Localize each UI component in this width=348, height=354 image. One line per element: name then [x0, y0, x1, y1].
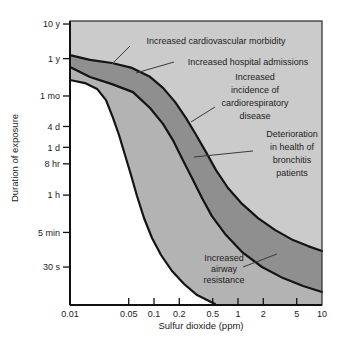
y-axis-title: Duration of exposure	[9, 114, 20, 202]
y-tick-label: 30 s	[43, 262, 61, 272]
x-tick-label: 1	[235, 309, 240, 319]
x-tick-label: 0.2	[173, 309, 186, 319]
y-tick-label: 1 d	[47, 143, 60, 153]
y-tick-label: 1 h	[47, 190, 60, 200]
sulfur-dioxide-exposure-chart: 10 y1 y1 mo4 d1 d8 hr1 h5 min30 s0.010.0…	[0, 0, 348, 354]
x-tick-label: 0.05	[120, 309, 138, 319]
y-tick-label: 8 hr	[44, 159, 60, 169]
x-tick-label: 2	[261, 309, 266, 319]
annotation-hospital-admissions: Increased hospital admissions	[188, 57, 309, 67]
annotation-cardiovascular-morbidity: Increased cardiovascular morbidity	[146, 36, 286, 46]
x-tick-label: 10	[317, 309, 327, 319]
y-tick-label: 5 min	[38, 228, 60, 238]
x-tick-label: 0.01	[61, 309, 79, 319]
x-axis-title: Sulfur dioxide (ppm)	[158, 320, 243, 331]
y-tick-label: 1 y	[48, 54, 61, 64]
exposure-effects-figure: 10 y1 y1 mo4 d1 d8 hr1 h5 min30 s0.010.0…	[0, 0, 348, 354]
y-tick-label: 4 d	[47, 122, 60, 132]
x-tick-label: 0.1	[148, 309, 161, 319]
x-tick-label: 0.5	[206, 309, 219, 319]
x-tick-label: 5	[294, 309, 299, 319]
y-tick-label: 10 y	[43, 19, 61, 29]
y-tick-label: 1 mo	[40, 91, 60, 101]
